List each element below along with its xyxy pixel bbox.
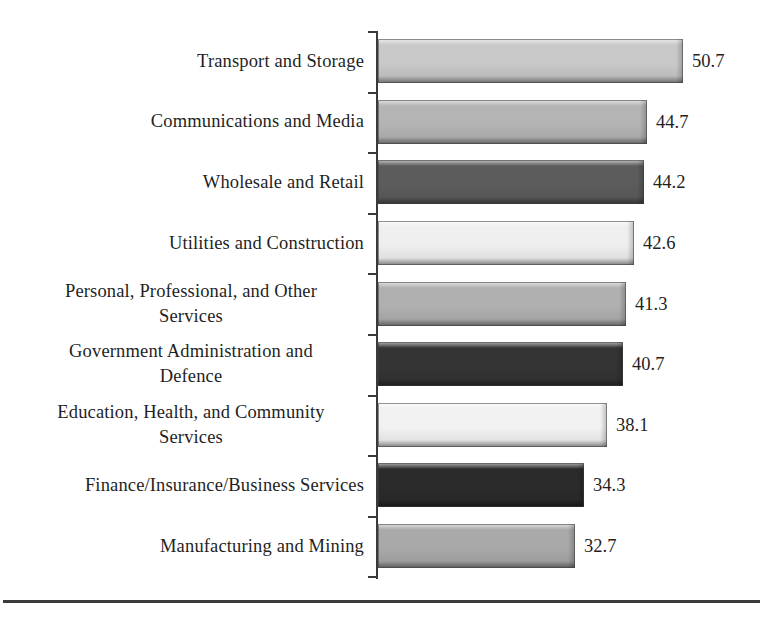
bevel-outline-shading: [378, 282, 626, 326]
bevel-outline-shading: [378, 463, 584, 507]
bar-value-label: 34.3: [593, 474, 625, 496]
bevel-bottom-shading: [378, 379, 623, 386]
category-label: Communications and Media: [6, 109, 364, 134]
bevel-top-shading: [378, 342, 623, 348]
category-label-line: Manufacturing and Mining: [6, 534, 364, 559]
bevel-right-shading: [619, 282, 626, 326]
bar-value-label: 50.7: [692, 50, 724, 72]
bevel-outline-shading: [378, 403, 607, 447]
bevel-bottom-shading: [378, 137, 647, 144]
bevel-right-shading: [600, 403, 607, 447]
bar-value-label: 42.6: [643, 232, 675, 254]
bevel-right-shading: [640, 100, 647, 144]
bevel-bottom-shading: [378, 561, 575, 568]
bevel-right-shading: [616, 342, 623, 386]
category-label: Personal, Professional, and OtherService…: [18, 279, 364, 329]
bar: [378, 100, 647, 144]
category-label: Manufacturing and Mining: [6, 534, 364, 559]
bar: [378, 160, 644, 204]
bevel-right-shading: [627, 221, 634, 265]
category-label-line: Utilities and Construction: [6, 231, 364, 256]
chart-row: Government Administration andDefence40.7: [0, 334, 763, 395]
chart-row: Education, Health, and CommunityServices…: [0, 395, 763, 456]
bevel-top-shading: [378, 160, 644, 166]
category-label-line: Wholesale and Retail: [6, 170, 364, 195]
bevel-outline-shading: [378, 342, 623, 386]
category-label-line: Government Administration and: [18, 339, 364, 364]
bevel-bottom-shading: [378, 197, 644, 204]
axis-tick: [368, 576, 377, 578]
bevel-right-shading: [637, 160, 644, 204]
bar: [378, 39, 683, 83]
bevel-outline-shading: [378, 160, 644, 204]
category-label-line: Services: [18, 425, 364, 450]
category-label: Utilities and Construction: [6, 231, 364, 256]
bar: [378, 524, 575, 568]
bar-value-label: 44.7: [656, 111, 688, 133]
category-label: Government Administration andDefence: [18, 339, 364, 389]
chart-row: Communications and Media44.7: [0, 92, 763, 153]
chart-row: Utilities and Construction42.6: [0, 213, 763, 274]
bevel-top-shading: [378, 282, 626, 288]
bar: [378, 221, 634, 265]
bar-value-label: 41.3: [635, 293, 667, 315]
horizontal-bar-chart: Transport and Storage50.7Communications …: [0, 0, 763, 622]
bar: [378, 282, 626, 326]
bar: [378, 463, 584, 507]
plot-area: Transport and Storage50.7Communications …: [0, 28, 763, 580]
bar-value-label: 44.2: [653, 171, 685, 193]
category-label: Education, Health, and CommunityServices: [18, 400, 364, 450]
bar-value-label: 40.7: [632, 353, 664, 375]
bevel-top-shading: [378, 221, 634, 227]
chart-row: Wholesale and Retail44.2: [0, 152, 763, 213]
bevel-top-shading: [378, 524, 575, 530]
bar-value-label: 32.7: [584, 535, 616, 557]
footer-rule: [3, 600, 760, 603]
category-label-line: Finance/Insurance/Business Services: [6, 473, 364, 498]
category-label: Wholesale and Retail: [6, 170, 364, 195]
bevel-bottom-shading: [378, 500, 584, 507]
category-label: Transport and Storage: [6, 49, 364, 74]
bevel-right-shading: [568, 524, 575, 568]
bevel-bottom-shading: [378, 258, 634, 265]
chart-row: Personal, Professional, and OtherService…: [0, 273, 763, 334]
bevel-top-shading: [378, 39, 683, 45]
category-label-line: Transport and Storage: [6, 49, 364, 74]
bevel-right-shading: [676, 39, 683, 83]
chart-row: Finance/Insurance/Business Services34.3: [0, 455, 763, 516]
bar: [378, 342, 623, 386]
bevel-outline-shading: [378, 100, 647, 144]
category-label: Finance/Insurance/Business Services: [6, 473, 364, 498]
category-label-line: Education, Health, and Community: [18, 400, 364, 425]
bar-value-label: 38.1: [616, 414, 648, 436]
bevel-bottom-shading: [378, 440, 607, 447]
category-label-line: Services: [18, 304, 364, 329]
bevel-right-shading: [577, 463, 584, 507]
bevel-top-shading: [378, 403, 607, 409]
bevel-outline-shading: [378, 524, 575, 568]
bevel-outline-shading: [378, 39, 683, 83]
category-label-line: Defence: [18, 364, 364, 389]
category-label-line: Communications and Media: [6, 109, 364, 134]
chart-row: Manufacturing and Mining32.7: [0, 516, 763, 577]
bevel-bottom-shading: [378, 319, 626, 326]
category-label-line: Personal, Professional, and Other: [18, 279, 364, 304]
chart-row: Transport and Storage50.7: [0, 31, 763, 92]
bevel-outline-shading: [378, 221, 634, 265]
bevel-bottom-shading: [378, 76, 683, 83]
bevel-top-shading: [378, 463, 584, 469]
bar: [378, 403, 607, 447]
bevel-top-shading: [378, 100, 647, 106]
